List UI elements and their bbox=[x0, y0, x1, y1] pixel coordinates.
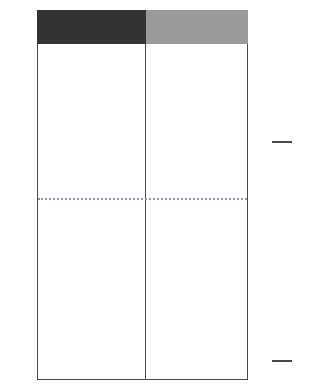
tens-rods-group-row-40 bbox=[38, 44, 145, 198]
cell-ones-column bbox=[146, 44, 247, 379]
ones-units-group-row-40 bbox=[146, 44, 247, 198]
cell-tens-column bbox=[38, 44, 146, 379]
ones-units-group-row-50 bbox=[146, 200, 247, 380]
table-header-row bbox=[37, 10, 248, 44]
column-header-tens bbox=[37, 10, 146, 44]
answer-blank-line-1[interactable] bbox=[272, 141, 292, 143]
column-header-ones bbox=[146, 10, 248, 44]
table-body bbox=[37, 44, 248, 380]
place-value-table bbox=[37, 10, 248, 380]
answer-blank-line-2[interactable] bbox=[272, 360, 292, 362]
tens-rods-group-row-50 bbox=[38, 200, 145, 380]
